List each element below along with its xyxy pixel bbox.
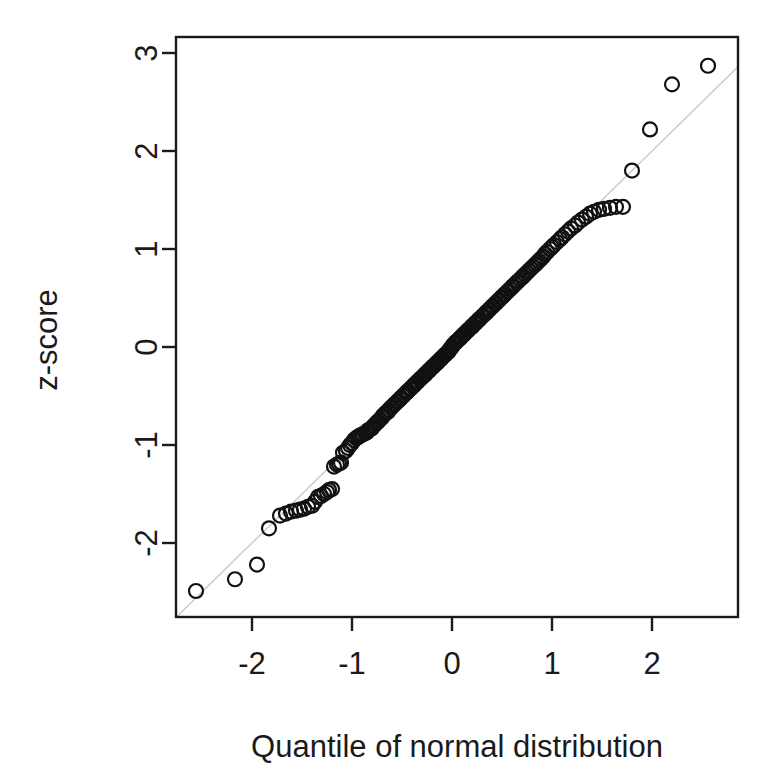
qq-plot-canvas: -2-1012 -2-10123 Quantile of normal dist… xyxy=(0,0,775,781)
x-axis-tick-label: 1 xyxy=(543,646,560,681)
y-axis-tick-label: 0 xyxy=(129,338,164,355)
y-axis-tick-label: -1 xyxy=(129,431,164,459)
y-axis-tick-label: 1 xyxy=(129,240,164,257)
x-axis-tick-label: -2 xyxy=(238,646,266,681)
y-axis-tick-label: 2 xyxy=(129,142,164,159)
qq-plot-figure: -2-1012 -2-10123 Quantile of normal dist… xyxy=(0,0,775,781)
x-axis-tick-label: 2 xyxy=(643,646,660,681)
x-axis-tick-label: 0 xyxy=(443,646,460,681)
x-axis-title: Quantile of normal distribution xyxy=(251,729,663,764)
y-axis-title: z-score xyxy=(29,289,64,391)
x-axis-tick-label: -1 xyxy=(338,646,366,681)
y-axis-tick-label: 3 xyxy=(129,44,164,61)
y-axis-tick-label: -2 xyxy=(129,529,164,557)
